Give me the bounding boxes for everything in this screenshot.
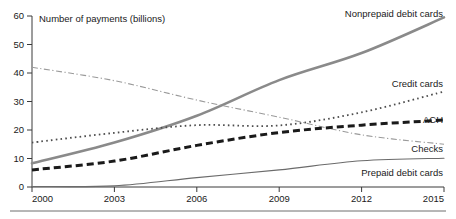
series-label-credit-cards: Credit cards: [392, 78, 443, 89]
y-tick-label: 50: [13, 39, 24, 50]
chart-figure: 0102030405060 200020032006200920122015 N…: [0, 0, 456, 219]
x-tick-label: 2003: [104, 193, 125, 204]
series-label-nonprepaid-debit-cards: Nonprepaid debit cards: [345, 8, 443, 19]
y-tick-label: 30: [13, 96, 24, 107]
x-tick-label: 2012: [351, 193, 372, 204]
y-tick-label: 60: [13, 10, 24, 21]
y-tick-label: 40: [13, 67, 24, 78]
line-chart: 0102030405060 200020032006200920122015 N…: [0, 0, 456, 219]
series-label-checks: Checks: [411, 143, 443, 154]
series-label-prepaid-debit-cards: Prepaid debit cards: [361, 167, 443, 178]
y-tick-label: 0: [19, 181, 24, 192]
x-tick-label: 2000: [32, 193, 53, 204]
y-tick-label: 20: [13, 124, 24, 135]
plot-title: Number of payments (billions): [39, 13, 165, 24]
x-tick-label: 2009: [269, 193, 290, 204]
x-tick-label: 2015: [423, 193, 444, 204]
x-tick-label: 2006: [186, 193, 207, 204]
series-label-ach: ACH: [423, 114, 443, 125]
y-tick-label: 10: [13, 153, 24, 164]
